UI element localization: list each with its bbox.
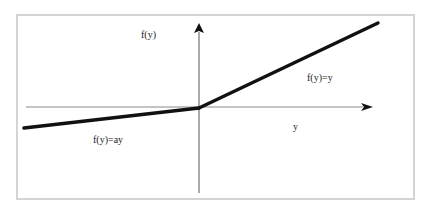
y-axis-label: f(y)	[141, 30, 156, 40]
right-branch-line	[199, 23, 378, 108]
left-branch-label: f(y)=ay	[93, 135, 123, 145]
x-axis-label: y	[293, 122, 298, 132]
right-branch-label: f(y)=y	[307, 73, 333, 83]
y-axis-arrow-icon	[194, 23, 204, 33]
left-branch-line	[24, 108, 199, 128]
leaky-relu-plot	[0, 0, 431, 215]
